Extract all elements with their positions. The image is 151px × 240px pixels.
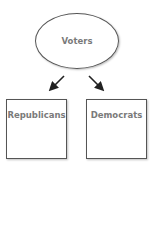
edge-to-republicans	[51, 76, 64, 89]
edge-to-democrats	[89, 76, 102, 89]
democrats-node: Democrats	[86, 99, 147, 159]
republicans-label: Republicans	[7, 110, 65, 158]
democrats-label: Democrats	[91, 110, 143, 158]
republicans-node: Republicans	[6, 99, 67, 159]
